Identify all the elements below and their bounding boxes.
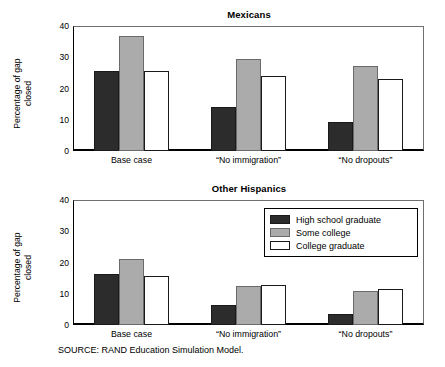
x-axis-category-label: “No dropouts”	[339, 329, 393, 339]
y-tick-label: 10	[45, 115, 69, 125]
y-tick-label: 30	[45, 52, 69, 62]
bar	[94, 71, 119, 151]
legend-college-graduate: College graduate	[270, 239, 412, 252]
bar	[236, 59, 261, 151]
x-axis-labels-other-hispanics: Base case“No immigration”“No dropouts”	[73, 329, 424, 343]
x-axis-category-label: Base case	[111, 155, 152, 165]
chart-panel-mexicans: Mexicans Percentage of gap closed 010203…	[0, 0, 445, 180]
y-tick-label: 20	[45, 84, 69, 94]
y-axis-ticks-mexicans: 010203040	[44, 26, 69, 151]
figure-root: Mexicans Percentage of gap closed 010203…	[0, 0, 445, 367]
legend-high-school-graduate: High school graduate	[270, 213, 412, 226]
y-axis-ticks-other-hispanics: 010203040	[44, 200, 69, 325]
y-axis-label-mexicans: Percentage of gap closed	[12, 34, 33, 154]
bar	[144, 276, 169, 325]
y-tick-label: 20	[45, 258, 69, 268]
bar	[144, 71, 169, 151]
bar	[94, 274, 119, 325]
y-axis-label-other-hispanics: Percentage of gap closed	[12, 208, 33, 328]
x-axis-category-label: “No immigration”	[216, 155, 281, 165]
bar	[211, 305, 236, 325]
bar	[378, 289, 403, 325]
legend-some-college: Some college	[270, 226, 412, 239]
y-tick-label: 40	[45, 21, 69, 31]
chart-title-other-hispanics: Other Hispanics	[73, 183, 425, 194]
source-note: SOURCE: RAND Education Simulation Model.	[58, 345, 244, 355]
x-axis-category-label: “No immigration”	[216, 329, 281, 339]
bar	[211, 107, 236, 151]
legend-swatch-icon	[270, 228, 290, 237]
bar	[353, 291, 378, 325]
y-tick-label: 10	[45, 289, 69, 299]
bar	[261, 285, 286, 325]
legend-swatch-icon	[270, 241, 290, 250]
chart-title-mexicans: Mexicans	[73, 9, 425, 20]
bar	[353, 66, 378, 151]
chart-legend: High school graduateSome collegeCollege …	[264, 208, 418, 257]
bar	[261, 76, 286, 151]
y-tick-label: 0	[45, 146, 69, 156]
y-tick-label: 40	[45, 195, 69, 205]
y-tick-label: 0	[45, 320, 69, 330]
bar	[119, 36, 144, 151]
legend-label: High school graduate	[296, 215, 381, 225]
bar	[328, 314, 353, 325]
legend-swatch-icon	[270, 215, 290, 224]
chart-panel-other-hispanics: Other Hispanics Percentage of gap closed…	[0, 180, 445, 340]
x-axis-category-label: Base case	[111, 329, 152, 339]
bar	[378, 79, 403, 152]
x-axis-category-label: “No dropouts”	[339, 155, 393, 165]
bar	[119, 259, 144, 325]
y-tick-label: 30	[45, 226, 69, 236]
x-axis-labels-mexicans: Base case“No immigration”“No dropouts”	[73, 155, 424, 169]
bar	[236, 286, 261, 325]
bar	[328, 122, 353, 151]
legend-label: Some college	[296, 228, 351, 238]
legend-label: College graduate	[296, 241, 365, 251]
bars-container-mexicans	[73, 26, 424, 151]
